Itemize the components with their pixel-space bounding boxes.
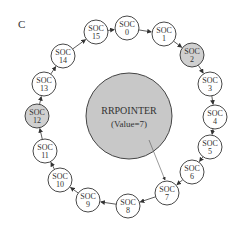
ring-arrow — [198, 65, 203, 73]
soc-node-index: 7 — [165, 193, 169, 202]
ring-arrow — [101, 202, 116, 204]
soc-node-11: SOC11 — [33, 139, 57, 163]
ring-arrow — [177, 180, 183, 185]
ring-arrow — [200, 157, 203, 162]
soc-node-index: 5 — [208, 147, 212, 156]
soc-node-index: 1 — [162, 34, 166, 43]
rrpointer-node: RRPOINTER (Value=7) — [86, 73, 172, 159]
soc-node-7: SOC7 — [155, 181, 179, 205]
soc-node-index: 6 — [190, 172, 194, 181]
soc-node-index: 2 — [190, 55, 194, 64]
ring-arrow — [71, 188, 79, 193]
ring-arrow — [40, 129, 42, 140]
soc-node-index: 15 — [92, 32, 100, 41]
soc-node-3: SOC3 — [198, 72, 222, 96]
ring-arrow — [108, 30, 114, 31]
soc-node-9: SOC9 — [76, 188, 100, 212]
soc-node-index: 4 — [213, 117, 217, 126]
rrpointer-title: RRPOINTER — [101, 105, 157, 116]
ring-arrow — [40, 97, 42, 105]
soc-node-0: SOC0 — [115, 16, 139, 40]
ring-arrow — [139, 30, 151, 32]
soc-node-13: SOC13 — [32, 72, 56, 96]
soc-node-8: SOC8 — [116, 194, 140, 218]
soc-node-index: 12 — [33, 116, 41, 125]
ring-arrow — [212, 96, 213, 104]
ring-arrow — [51, 163, 55, 170]
soc-node-12: SOC12 — [25, 104, 49, 128]
ring-arrow — [140, 197, 155, 202]
soc-node-5: SOC5 — [198, 135, 222, 159]
soc-node-index: 9 — [86, 200, 90, 209]
soc-node-2: SOC2 — [180, 43, 204, 67]
ring-arrow — [73, 40, 86, 49]
ring-arrow — [51, 67, 56, 74]
soc-node-10: SOC10 — [48, 168, 72, 192]
soc-node-index: 11 — [41, 151, 49, 160]
rrpointer-value: (Value=7) — [111, 119, 147, 129]
soc-node-4: SOC4 — [203, 105, 227, 129]
soc-node-index: 8 — [126, 206, 130, 215]
soc-node-index: 10 — [56, 180, 64, 189]
soc-node-index: 3 — [208, 84, 212, 93]
soc-node-15: SOC15 — [84, 20, 108, 44]
soc-node-6: SOC6 — [180, 160, 204, 184]
round-robin-diagram: C RRPOINTER (Value=7) SOC0SOC1SOC2SOC3SO… — [0, 0, 243, 236]
figure-label: C — [18, 18, 25, 30]
ring-arrow — [174, 41, 182, 47]
soc-node-index: 0 — [125, 28, 129, 37]
soc-node-index: 13 — [40, 84, 48, 93]
soc-node-index: 14 — [59, 56, 67, 65]
ring-arrow — [212, 129, 213, 134]
soc-node-1: SOC1 — [152, 22, 176, 46]
soc-node-14: SOC14 — [51, 44, 75, 68]
